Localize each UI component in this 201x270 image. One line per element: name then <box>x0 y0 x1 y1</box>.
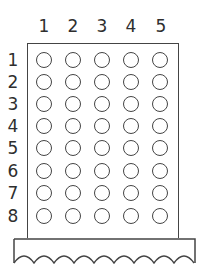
hole-r8-c2[interactable] <box>65 208 81 224</box>
hole-r6-c1[interactable] <box>36 163 52 179</box>
hole-r4-c4[interactable] <box>123 118 139 134</box>
hole-r1-c2[interactable] <box>65 52 81 68</box>
hole-r5-c1[interactable] <box>36 140 52 156</box>
hole-r8-c1[interactable] <box>36 208 52 224</box>
row-label-2: 2 <box>6 74 20 91</box>
hole-r1-c3[interactable] <box>94 52 110 68</box>
hole-r8-c3[interactable] <box>94 208 110 224</box>
hole-r3-c4[interactable] <box>123 96 139 112</box>
hole-r6-c4[interactable] <box>123 163 139 179</box>
hole-r2-c1[interactable] <box>36 74 52 90</box>
hole-r3-c2[interactable] <box>65 96 81 112</box>
hole-r3-c5[interactable] <box>152 96 168 112</box>
column-label-1: 1 <box>37 18 51 35</box>
hole-r2-c4[interactable] <box>123 74 139 90</box>
hole-r7-c4[interactable] <box>123 185 139 201</box>
hole-r5-c2[interactable] <box>65 140 81 156</box>
hole-r3-c1[interactable] <box>36 96 52 112</box>
hole-r4-c5[interactable] <box>152 118 168 134</box>
hole-r3-c3[interactable] <box>94 96 110 112</box>
hole-r7-c3[interactable] <box>94 185 110 201</box>
hole-r8-c5[interactable] <box>152 208 168 224</box>
row-label-7: 7 <box>6 185 20 202</box>
hole-r5-c4[interactable] <box>123 140 139 156</box>
hole-r6-c5[interactable] <box>152 163 168 179</box>
hole-r4-c3[interactable] <box>94 118 110 134</box>
row-label-8: 8 <box>6 208 20 225</box>
row-label-6: 6 <box>6 163 20 180</box>
hole-r7-c2[interactable] <box>65 185 81 201</box>
hole-r1-c5[interactable] <box>152 52 168 68</box>
column-label-2: 2 <box>66 18 80 35</box>
row-label-1: 1 <box>6 52 20 69</box>
hole-r1-c1[interactable] <box>36 52 52 68</box>
hole-r7-c1[interactable] <box>36 185 52 201</box>
hole-r6-c3[interactable] <box>94 163 110 179</box>
wavy-edge <box>14 256 194 263</box>
hole-r2-c5[interactable] <box>152 74 168 90</box>
column-label-5: 5 <box>154 18 168 35</box>
row-label-4: 4 <box>6 118 20 135</box>
column-label-3: 3 <box>95 18 109 35</box>
row-label-5: 5 <box>6 140 20 157</box>
column-label-4: 4 <box>124 18 138 35</box>
hole-r7-c5[interactable] <box>152 185 168 201</box>
hole-r4-c2[interactable] <box>65 118 81 134</box>
hole-r5-c3[interactable] <box>94 140 110 156</box>
hole-r2-c2[interactable] <box>65 74 81 90</box>
hole-r8-c4[interactable] <box>123 208 139 224</box>
hole-r2-c3[interactable] <box>94 74 110 90</box>
row-label-3: 3 <box>6 96 20 113</box>
hole-r4-c1[interactable] <box>36 118 52 134</box>
hole-r1-c4[interactable] <box>123 52 139 68</box>
board-base <box>13 238 196 264</box>
hole-r5-c5[interactable] <box>152 140 168 156</box>
hole-r6-c2[interactable] <box>65 163 81 179</box>
